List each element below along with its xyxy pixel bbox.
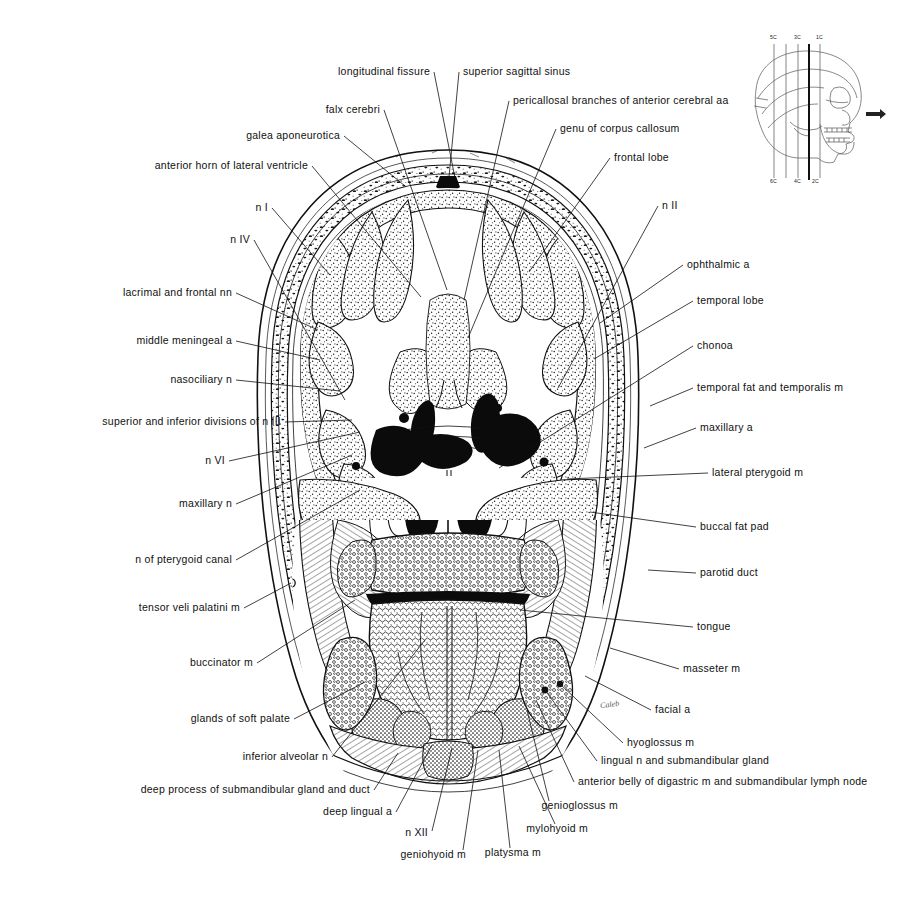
label-maxillary-n: maxillary n [179,498,232,509]
leader-masseter-m [610,648,679,669]
label-temporal-lobe: temporal lobe [697,295,764,306]
label-buccinator-m: buccinator m [190,657,253,668]
label-frontal-lobe: frontal lobe [614,152,669,163]
key-label-top-2: 1C [816,34,823,40]
key-label-bottom-0: 6C [770,178,777,184]
label-platysma-m: platysma m [485,847,541,858]
label-chonoa: chonoa [697,340,733,351]
leader-temporal-fat-and-temporalis-m [650,388,693,406]
label-ophthalmic-a: ophthalmic a [687,259,750,270]
key-label-top-0: 5C [770,34,777,40]
label-lateral-pterygoid-m: lateral pterygoid m [712,467,803,478]
label-n-ii: n II [662,200,678,211]
label-n-iv: n IV [230,234,250,245]
key-label-bottom-2: 2C [812,178,819,184]
label-deep-process-of-submandibular-gland-and-duct: deep process of submandibular gland and … [141,784,370,795]
label-genioglossus-m: genioglossus m [542,800,618,811]
label-tensor-veli-palatini-m: tensor veli palatini m [139,602,240,613]
label-anterior-horn-of-lateral-ventricle: anterior horn of lateral ventricle [155,160,308,171]
label-deep-lingual-a: deep lingual a [323,806,392,817]
label-n-i: n I [256,202,268,213]
key-label-top-1: 3C [794,34,801,40]
label-superior-sagittal-sinus: superior sagittal sinus [463,66,570,77]
label-anterior-belly-of-digastric-m-and-submandibular-: anterior belly of digastric m and subman… [578,776,867,787]
label-middle-meningeal-a: middle meningeal a [136,335,232,346]
label-genu-of-corpus-callosum: genu of corpus callosum [560,123,680,134]
label-pericallosal-branches-of-anterior-cerebral-aa: pericallosal branches of anterior cerebr… [513,95,729,106]
anterior-arrow [866,109,886,119]
hard-palate [367,533,529,597]
label-parotid-duct: parotid duct [700,567,758,578]
label-n-of-pterygoid-canal: n of pterygoid canal [135,554,232,565]
label-geniohyoid-m: geniohyoid m [401,849,466,860]
key-label-bottom-1: 4C [794,178,801,184]
label-lacrimal-and-frontal-nn: lacrimal and frontal nn [123,287,232,298]
label-superior-and-inferior-divisions-of-n-iii: superior and inferior divisions of n III [102,416,281,427]
label-facial-a: facial a [655,704,690,715]
label-hyoglossus-m: hyoglossus m [627,737,694,748]
label-falx-cerebri: falx cerebri [326,104,380,115]
leader-parotid-duct [648,570,696,573]
label-inferior-alveolar-n: inferior alveolar n [243,751,328,762]
label-n-xii: n XII [405,827,428,838]
label-longitudinal-fissure: longitudinal fissure [338,66,430,77]
label-buccal-fat-pad: buccal fat pad [700,521,769,532]
label-maxillary-a: maxillary a [700,422,753,433]
label-temporal-fat-and-temporalis-m: temporal fat and temporalis m [697,382,843,393]
label-tongue: tongue [697,621,731,632]
label-galea-aponeurotica: galea aponeurotica [246,130,340,141]
anatomy-figure: longitudinal fissurefalx cerebrigalea ap… [0,0,897,912]
label-mylohyoid-m: mylohyoid m [526,823,588,834]
label-n-vi: n VI [205,455,225,466]
label-masseter-m: masseter m [683,663,740,674]
parotid-duct-marker [644,566,652,574]
label-nasociliary-n: nasociliary n [170,374,232,385]
leader-maxillary-a [644,428,696,448]
skull-lateral-outline [754,51,861,163]
key-skull-diagram: 5C 3C 1C 6C 4C 2C [738,28,888,203]
label-glands-of-soft-palate: glands of soft palate [191,713,290,724]
label-lingual-n-and-submandibular-gland: lingual n and submandibular gland [601,755,769,766]
